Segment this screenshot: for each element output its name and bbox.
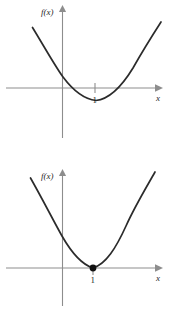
top-graph-panel: f(x) x 1 [0,0,170,158]
top-y-axis-arrowhead [59,5,66,12]
top-x-axis-label: x [155,93,160,103]
top-y-axis-label: f(x) [41,7,54,17]
top-graph-svg: f(x) x 1 [0,0,170,158]
bottom-parabola-curve [31,172,156,268]
two-parabola-figure: f(x) x 1 f(x) x 1 [0,0,170,316]
top-x-axis-arrowhead [155,84,163,92]
bottom-y-axis-arrowhead [59,169,66,176]
bottom-x-tick-label-1: 1 [91,275,96,285]
bottom-tangent-point-marker [90,265,97,272]
bottom-y-axis-label: f(x) [41,171,54,181]
top-x-tick-label-1: 1 [93,95,98,105]
bottom-graph-panel: f(x) x 1 [0,158,170,316]
top-parabola-curve [33,22,162,101]
bottom-graph-svg: f(x) x 1 [0,158,170,316]
bottom-x-axis-arrowhead [155,264,163,272]
bottom-x-axis-label: x [155,273,160,283]
